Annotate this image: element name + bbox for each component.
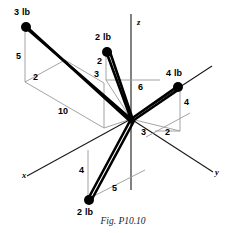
construction-10-baseline [25, 82, 104, 128]
node-dot-2lb-upper [102, 47, 112, 57]
force-label-3lb: 3 lb [14, 8, 30, 17]
dimension-label-6-center: 6 [138, 83, 143, 92]
construction-4lb-base-to-origin [131, 119, 180, 131]
axis-label-y: y [215, 168, 219, 177]
dimension-label-5-lower: 5 [112, 184, 117, 193]
dimension-label-4-right: 4 [184, 98, 189, 107]
dimension-label-5-upper-left: 5 [16, 52, 21, 61]
axis-label-z: z [137, 18, 140, 27]
force-line-4lb-double [131, 90, 178, 122]
figure-p10-10: 3 lb 2 lb 4 lb 2 lb 5 2 10 2 3 6 4 2 3 4… [0, 0, 246, 233]
node-dot-4lb [173, 82, 183, 92]
dimension-label-2-right-lower: 2 [165, 128, 170, 137]
node-dot-3lb [21, 22, 31, 32]
construction-3lb-offset-2 [25, 60, 65, 82]
figure-caption: Fig. P10.10 [0, 216, 246, 226]
dimension-label-2-middle-top: 2 [97, 57, 102, 66]
force-label-4lb: 4 lb [166, 69, 182, 78]
force-label-2lb-upper: 2 lb [95, 33, 111, 42]
force-diagram-canvas [0, 0, 246, 233]
dimension-label-10-left: 10 [58, 107, 68, 116]
dimension-label-4-lower-left: 4 [79, 166, 84, 175]
node-dot-2lb-lower [84, 195, 94, 205]
dimension-label-3-middle: 3 [94, 70, 99, 79]
dimension-label-3-center-lower: 3 [141, 128, 146, 137]
axis-label-x: x [22, 171, 26, 180]
dimension-label-2-upper-left: 2 [33, 73, 38, 82]
